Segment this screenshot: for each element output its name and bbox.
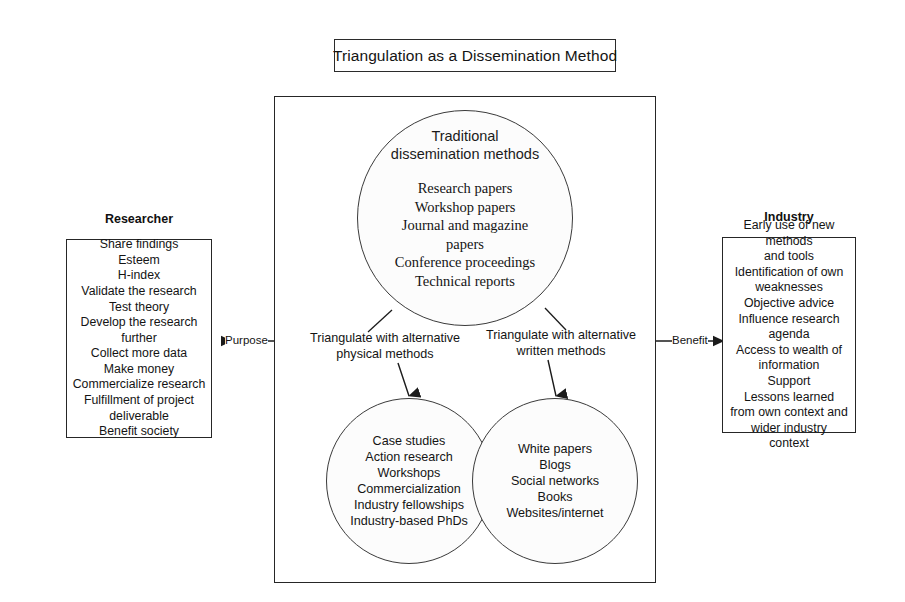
list-line: Action research xyxy=(329,449,489,465)
list-line: wider industry xyxy=(725,421,853,437)
industry-items: Early use of new methodsand toolsIdentif… xyxy=(723,218,855,452)
list-line: Commercialize research xyxy=(69,377,209,393)
diagram-title-box: Triangulation as a Dissemination Method xyxy=(334,39,616,72)
list-line: Develop the research further xyxy=(69,315,209,346)
researcher-heading: Researcher xyxy=(66,212,212,226)
list-line: Research papers xyxy=(360,179,570,198)
list-line: Validate the research xyxy=(69,284,209,300)
diagram-canvas: Triangulation as a Dissemination Method xyxy=(0,0,905,602)
list-line: Access to wealth of xyxy=(725,343,853,359)
list-line: Industry fellowships xyxy=(329,497,489,513)
list-line: Benefit society xyxy=(69,424,209,440)
list-line: Journal and magazine xyxy=(360,216,570,235)
list-line: weaknesses xyxy=(725,280,853,296)
researcher-box: Share findingsEsteemH-indexValidate the … xyxy=(66,239,212,438)
list-line: and tools xyxy=(725,249,853,265)
list-line: from own context and xyxy=(725,405,853,421)
physical-methods-items: Case studiesAction researchWorkshopsComm… xyxy=(329,433,489,529)
list-line: Commercialization xyxy=(329,481,489,497)
list-line: Technical reports xyxy=(360,272,570,291)
researcher-items: Share findingsEsteemH-indexValidate the … xyxy=(67,237,211,440)
list-line: Fulfillment of project xyxy=(69,393,209,409)
list-line: Workshops xyxy=(329,465,489,481)
written-methods-circle: White papersBlogsSocial networksBooksWeb… xyxy=(472,398,638,564)
list-line: Test theory xyxy=(69,300,209,316)
list-line: Blogs xyxy=(475,457,635,473)
list-line: Collect more data xyxy=(69,346,209,362)
physical-methods-circle: Case studiesAction researchWorkshopsComm… xyxy=(326,398,492,564)
written-methods-items: White papersBlogsSocial networksBooksWeb… xyxy=(475,441,635,521)
list-line: information xyxy=(725,358,853,374)
list-line: Make money xyxy=(69,362,209,378)
list-line: Social networks xyxy=(475,473,635,489)
list-line: Lessons learned xyxy=(725,390,853,406)
list-line: Support xyxy=(725,374,853,390)
list-line: Websites/internet xyxy=(475,505,635,521)
list-line: Books xyxy=(475,489,635,505)
list-line: Case studies xyxy=(329,433,489,449)
list-line: Influence research agenda xyxy=(725,312,853,343)
list-line: context xyxy=(725,436,853,452)
list-line: Share findings xyxy=(69,237,209,253)
diagram-title: Triangulation as a Dissemination Method xyxy=(333,47,617,65)
benefit-connector-label: Benefit xyxy=(672,334,708,346)
traditional-methods-items: Research papersWorkshop papersJournal an… xyxy=(360,179,570,290)
list-line: Workshop papers xyxy=(360,198,570,217)
list-line: Conference proceedings xyxy=(360,253,570,272)
list-line: White papers xyxy=(475,441,635,457)
traditional-methods-heading: Traditional dissemination methods xyxy=(365,127,565,163)
list-line: papers xyxy=(360,235,570,254)
branch-label-physical: Triangulate with alternative physical me… xyxy=(296,331,474,362)
list-line: Esteem xyxy=(69,253,209,269)
traditional-methods-circle: Traditional dissemination methods Resear… xyxy=(357,110,573,326)
industry-heading: Industry xyxy=(722,210,856,224)
list-line: Industry-based PhDs xyxy=(329,513,489,529)
list-line: H-index xyxy=(69,268,209,284)
list-line: Identification of own xyxy=(725,265,853,281)
industry-box: Early use of new methodsand toolsIdentif… xyxy=(722,237,856,433)
list-line: Objective advice xyxy=(725,296,853,312)
branch-label-written: Triangulate with alternative written met… xyxy=(472,328,650,359)
purpose-connector-label: Purpose xyxy=(225,334,268,346)
list-line: deliverable xyxy=(69,409,209,425)
